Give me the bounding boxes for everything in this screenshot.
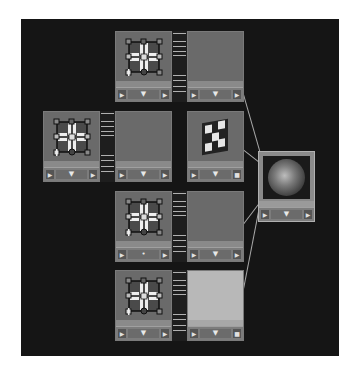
sphere-preview [263,156,310,199]
output-button[interactable]: ■ [233,329,241,338]
dropdown-button[interactable]: ▼ [200,250,231,259]
pattern-node[interactable]: ▶ • ▶ [115,191,172,262]
node-toolbar: ▶ ▼ ■ [188,326,243,340]
connector-strip[interactable] [100,111,115,182]
connector-strip[interactable] [172,191,187,262]
pattern-node[interactable]: ▶ ▼ ▶ [115,31,172,102]
checker-icon [202,119,228,156]
material-preview-node[interactable]: ▶ ▼ ▶ [258,151,315,222]
node-toolbar: ▶ ▼ ▶ [116,167,171,181]
dropdown-button[interactable]: ▼ [200,329,231,338]
pattern-node[interactable]: ▶ ▼ ▶ [43,111,100,182]
color-swatch [188,271,243,320]
output-arrow-button[interactable]: ▶ [161,90,169,99]
color-panel-node[interactable]: ▶ ▼ ▶ [187,31,244,102]
color-panel-node[interactable]: ▶ ▼ ▶ [187,191,244,262]
color-panel-node-light[interactable]: ▶ ▼ ■ [187,270,244,341]
input-arrow-button[interactable]: ▶ [190,90,198,99]
dropdown-button[interactable]: ▼ [200,90,231,99]
input-arrow-button[interactable]: ▶ [190,250,198,259]
tile-pattern-icon [125,277,163,315]
node-toolbar: ▶ ▼ ▶ [116,326,171,340]
node-preview [116,192,171,241]
input-arrow-button[interactable]: ▶ [118,90,126,99]
dropdown-button[interactable]: • [128,250,159,259]
input-arrow-button[interactable]: ▶ [190,170,198,179]
node-toolbar: ▶ ▼ ▶ [259,207,314,221]
output-arrow-button[interactable]: ▶ [89,170,97,179]
dropdown-button[interactable]: ▼ [128,170,159,179]
node-toolbar: ▶ ▼ ▶ [188,87,243,101]
output-button[interactable]: ■ [233,170,241,179]
input-arrow-button[interactable]: ▶ [118,170,126,179]
node-toolbar: ▶ • ▶ [116,247,171,261]
sphere-preview-icon [268,159,305,196]
dropdown-button[interactable]: ▼ [271,210,302,219]
output-arrow-button[interactable]: ▶ [233,90,241,99]
node-toolbar: ▶ ▼ ▶ [44,167,99,181]
dropdown-button[interactable]: ▼ [200,170,231,179]
node-graph-canvas[interactable]: ▶ ▼ ▶ ▶ ▼ ▶ [21,19,339,356]
dropdown-button[interactable]: ▼ [128,329,159,338]
connector-strip[interactable] [172,31,187,102]
node-preview [44,112,99,161]
tile-pattern-icon [53,118,91,156]
tile-pattern-icon [125,198,163,236]
output-arrow-button[interactable]: ▶ [304,210,312,219]
node-preview [116,32,171,81]
node-toolbar: ▶ ▼ ■ [188,167,243,181]
dropdown-button[interactable]: ▼ [56,170,87,179]
node-toolbar: ▶ ▼ ▶ [116,87,171,101]
pattern-node[interactable]: ▶ ▼ ▶ [115,270,172,341]
output-arrow-button[interactable]: ▶ [233,250,241,259]
input-arrow-button[interactable]: ▶ [118,250,126,259]
color-swatch [188,32,243,81]
color-panel-node[interactable]: ▶ ▼ ▶ [115,111,172,182]
input-arrow-button[interactable]: ▶ [190,329,198,338]
tile-pattern-icon [125,38,163,76]
dropdown-button[interactable]: ▼ [128,90,159,99]
node-preview [188,112,243,161]
node-toolbar: ▶ ▼ ▶ [188,247,243,261]
color-swatch [188,192,243,241]
color-swatch [116,112,171,161]
output-arrow-button[interactable]: ▶ [161,170,169,179]
checker-node[interactable]: ▶ ▼ ■ [187,111,244,182]
connector-strip[interactable] [172,270,187,341]
input-arrow-button[interactable]: ▶ [46,170,54,179]
output-arrow-button[interactable]: ▶ [161,329,169,338]
input-arrow-button[interactable]: ▶ [261,210,269,219]
output-arrow-button[interactable]: ▶ [161,250,169,259]
node-preview [116,271,171,320]
input-arrow-button[interactable]: ▶ [118,329,126,338]
